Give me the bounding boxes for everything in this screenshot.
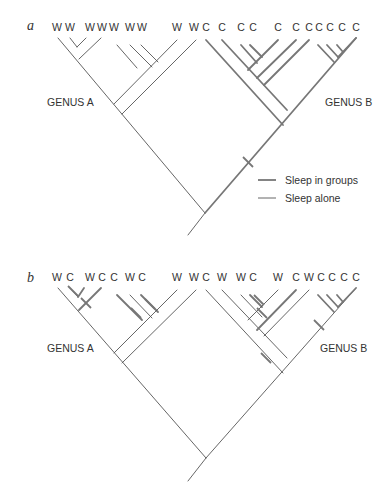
tip-label: W: [109, 21, 119, 33]
panel-letter: b: [27, 270, 34, 285]
branch-sleep-alone: [188, 213, 205, 235]
branch-sleep-alone: [77, 38, 86, 47]
genus-label: GENUS A: [47, 342, 94, 354]
tip-label: W: [97, 21, 107, 33]
branch-sleep-in-groups: [337, 295, 343, 302]
branch-sleep-in-groups: [338, 38, 356, 57]
tip-label: C: [352, 271, 360, 283]
tip-label: C: [292, 271, 300, 283]
tip-label: C: [249, 271, 257, 283]
branch-sleep-in-groups: [257, 290, 296, 330]
tip-label: C: [340, 271, 348, 283]
branch-sleep-in-groups: [338, 288, 356, 307]
branch-sleep-in-groups: [248, 40, 278, 70]
tip-label: C: [98, 271, 106, 283]
branch-sleep-alone: [122, 40, 196, 114]
tip-label: C: [305, 21, 313, 33]
panel-letter: a: [27, 18, 34, 33]
legend-label: Sleep in groups: [285, 174, 358, 186]
tip-label: C: [274, 21, 282, 33]
cladogram-figure: aWWWWWWWWWCCCCCCCCCCCGENUS AGENUS BbWCWC…: [0, 0, 382, 490]
tip-label: C: [326, 21, 334, 33]
tip-label: C: [202, 21, 210, 33]
tree-panel-b: bWCWCCWCWWCWWCWCWCCCCGENUS AGENUS B: [27, 270, 367, 481]
legend-label: Sleep alone: [285, 192, 341, 204]
tip-label: W: [52, 21, 62, 33]
branch-sleep-alone: [122, 290, 196, 363]
tip-label: C: [66, 271, 74, 283]
branch-sleep-alone: [141, 45, 158, 62]
transition-tick: [145, 299, 155, 309]
branch-sleep-in-groups: [206, 40, 283, 125]
tip-label: W: [304, 271, 314, 283]
branch-sleep-alone: [58, 38, 205, 213]
tip-label: W: [52, 271, 62, 283]
tip-label: C: [317, 271, 325, 283]
tip-label: W: [125, 271, 135, 283]
genus-label: GENUS A: [47, 96, 94, 108]
branch-sleep-in-groups: [318, 45, 334, 62]
genus-label: GENUS B: [325, 96, 372, 108]
tip-label: W: [125, 21, 135, 33]
tip-label: W: [217, 271, 227, 283]
genus-label: GENUS B: [320, 342, 367, 354]
tip-label: W: [172, 21, 182, 33]
tip-label: C: [338, 21, 346, 33]
tip-label: C: [202, 271, 210, 283]
tip-label: W: [172, 271, 182, 283]
transition-tick: [314, 320, 324, 330]
tip-label: C: [315, 21, 323, 33]
legend: Sleep in groupsSleep alone: [258, 174, 358, 204]
tip-label: W: [85, 21, 95, 33]
branch-sleep-alone: [206, 290, 283, 373]
branch-sleep-in-groups: [318, 295, 334, 312]
tip-label: W: [273, 271, 283, 283]
tip-label: W: [85, 271, 95, 283]
tip-label: W: [65, 21, 75, 33]
tip-label: W: [189, 21, 199, 33]
branch-sleep-alone: [206, 288, 356, 458]
tip-label: W: [137, 21, 147, 33]
tip-label: C: [249, 21, 257, 33]
branch-sleep-in-groups: [78, 288, 84, 297]
tip-label: C: [110, 271, 118, 283]
branch-sleep-in-groups: [241, 45, 257, 63]
tip-label: W: [189, 271, 199, 283]
branch-sleep-alone: [70, 38, 77, 47]
branch-sleep-alone: [58, 288, 206, 458]
tip-label: C: [237, 21, 245, 33]
branch-sleep-in-groups: [250, 45, 262, 57]
tip-label: C: [218, 21, 226, 33]
tip-label: C: [328, 271, 336, 283]
transition-tick: [131, 308, 141, 318]
panels-layer: aWWWWWWWWWCCCCCCCCCCCGENUS AGENUS BbWCWC…: [27, 18, 372, 481]
transition-tick: [68, 286, 78, 296]
tip-label: C: [352, 21, 360, 33]
tip-label: C: [292, 21, 300, 33]
branch-sleep-alone: [188, 458, 206, 481]
tip-label: C: [138, 271, 146, 283]
branch-sleep-in-groups: [337, 45, 343, 52]
branch-sleep-alone: [130, 295, 152, 318]
tip-label: W: [236, 271, 246, 283]
